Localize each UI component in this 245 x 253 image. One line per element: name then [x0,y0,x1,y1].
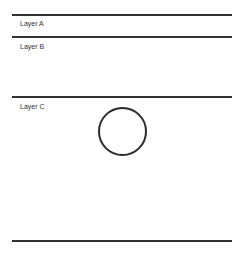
layer-a-label: Layer A [20,20,44,28]
layer-c-label: Layer C [20,103,45,111]
layer-c-top-rule [12,96,232,98]
layer-a-top-rule [12,14,232,16]
bottom-rule [12,240,232,242]
layer-b-label: Layer B [20,43,44,51]
circle-shape [98,107,147,156]
layer-b-top-rule [12,36,232,38]
